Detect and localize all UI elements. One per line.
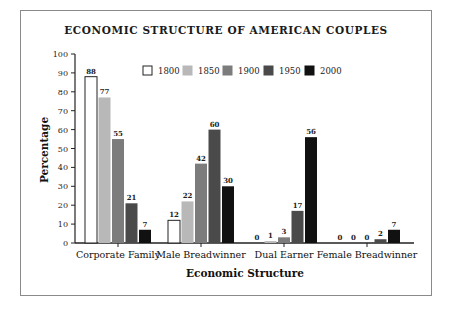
- bar-value-label: 0: [338, 233, 343, 242]
- bar-1950: [209, 130, 221, 243]
- bar-value-label: 0: [351, 233, 356, 242]
- bar-1950: [292, 211, 304, 243]
- bar-value-label: 56: [306, 127, 316, 136]
- legend-label-1950: 1950: [279, 66, 301, 76]
- y-tick-label: 70: [58, 107, 68, 116]
- bar-1850: [182, 201, 194, 243]
- y-tick-label: 100: [53, 50, 68, 59]
- y-tick-label: 10: [58, 220, 68, 229]
- bar-chart: 0102030405060708090100Corporate Family88…: [0, 0, 451, 309]
- category-label: Female Breadwinner: [317, 249, 418, 260]
- bar-value-label: 55: [113, 129, 123, 138]
- bar-2000: [139, 230, 151, 243]
- bar-value-label: 30: [223, 176, 233, 185]
- y-tick-label: 80: [58, 88, 68, 97]
- y-tick-label: 90: [58, 69, 68, 78]
- bar-1850: [99, 97, 111, 243]
- bar-value-label: 3: [282, 227, 287, 236]
- y-tick-label: 60: [58, 126, 68, 135]
- category-label: Male Breadwinner: [156, 249, 246, 260]
- x-axis-title: Economic Structure: [186, 267, 304, 279]
- legend-label-1850: 1850: [198, 66, 220, 76]
- category-label: Dual Earner: [255, 249, 314, 260]
- bar-2000: [388, 230, 400, 243]
- bar-value-label: 42: [196, 154, 206, 163]
- bar-value-label: 0: [365, 233, 370, 242]
- y-tick-label: 30: [58, 182, 68, 191]
- y-axis-title: Percentage: [38, 117, 50, 184]
- bar-1950: [375, 239, 387, 243]
- bar-value-label: 88: [86, 67, 96, 76]
- bar-2000: [222, 186, 234, 243]
- bar-1800: [85, 77, 97, 243]
- bar-1900: [195, 164, 207, 243]
- bar-1800: [168, 220, 180, 243]
- y-tick-label: 0: [63, 239, 68, 248]
- legend-swatch-1900: [223, 66, 232, 75]
- bar-value-label: 2: [378, 229, 383, 238]
- bar-value-label: 0: [255, 233, 260, 242]
- bar-value-label: 60: [210, 120, 220, 129]
- legend-label-2000: 2000: [320, 66, 342, 76]
- bar-value-label: 77: [100, 87, 110, 96]
- bar-1950: [126, 203, 138, 243]
- y-tick-label: 40: [58, 163, 68, 172]
- bar-value-label: 22: [183, 191, 193, 200]
- legend-label-1900: 1900: [238, 66, 260, 76]
- bar-1850: [265, 241, 277, 243]
- bar-1900: [112, 139, 124, 243]
- legend-swatch-1950: [264, 66, 273, 75]
- bar-2000: [305, 137, 317, 243]
- bar-value-label: 12: [169, 210, 179, 219]
- bar-value-label: 21: [127, 193, 137, 202]
- category-label: Corporate Family: [76, 249, 161, 260]
- legend-swatch-1800: [143, 66, 152, 75]
- bar-value-label: 7: [143, 220, 148, 229]
- y-tick-label: 20: [58, 201, 68, 210]
- legend-label-1800: 1800: [158, 66, 180, 76]
- bar-value-label: 1: [268, 231, 273, 240]
- bar-1900: [278, 237, 290, 243]
- bar-value-label: 17: [293, 201, 303, 210]
- y-tick-label: 50: [58, 145, 68, 154]
- legend-swatch-1850: [183, 66, 192, 75]
- legend-swatch-2000: [305, 66, 314, 75]
- bar-value-label: 7: [392, 220, 397, 229]
